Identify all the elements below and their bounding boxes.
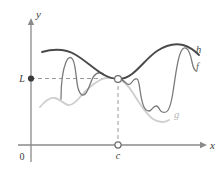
c-open-circle [115, 142, 121, 148]
curve-label-f: f [196, 61, 201, 72]
y-axis-label: y [35, 8, 41, 20]
x-axis-label: x [209, 139, 215, 151]
curve-label-h: h [196, 44, 201, 55]
limit-tick-label: L [18, 73, 25, 84]
origin-label: 0 [20, 151, 25, 162]
curve-label-g: g [174, 109, 179, 120]
c-tick-label: c [116, 150, 121, 161]
curve-g [40, 78, 169, 123]
graph-canvas: y x 0 L c h f g [0, 0, 221, 172]
x-axis-arrow-icon [200, 142, 207, 148]
y-axis-arrow-icon [28, 18, 34, 25]
squeeze-theorem-figure: y x 0 L c h f g [0, 0, 221, 172]
limit-open-circle [115, 76, 122, 83]
limit-point-dot [28, 75, 34, 81]
